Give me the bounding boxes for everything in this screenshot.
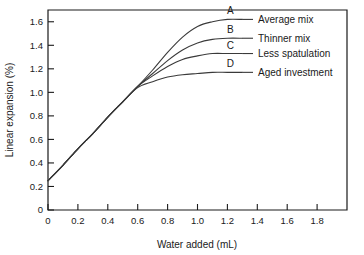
series-name-a: Average mix xyxy=(258,14,313,25)
y-axis-title: Linear expansion (%) xyxy=(4,63,15,158)
x-tick-label: 0 xyxy=(45,215,50,226)
x-tick-label: 1.0 xyxy=(191,215,204,226)
x-tick-label: 1.4 xyxy=(251,215,264,226)
chart-figure: 00.20.40.60.81.01.21.41.6 00.20.40.60.81… xyxy=(0,0,364,255)
x-tick-label: 0.2 xyxy=(71,215,84,226)
y-tick-label: 1.6 xyxy=(30,16,43,27)
y-tick-label: 1.4 xyxy=(30,40,43,51)
x-tick-label: 1.6 xyxy=(281,215,294,226)
y-tick-label: 0.4 xyxy=(30,157,43,168)
x-tick-label: 1.2 xyxy=(221,215,234,226)
x-tick-label: 0.6 xyxy=(131,215,144,226)
x-axis-title: Water added (mL) xyxy=(157,239,237,250)
y-tick-label: 0 xyxy=(38,204,43,215)
series-key-c: C xyxy=(227,40,234,51)
x-tick-label: 0.8 xyxy=(161,215,174,226)
y-tick-label: 0.6 xyxy=(30,134,43,145)
series-name-b: Thinner mix xyxy=(258,33,310,44)
y-tick-label: 1.0 xyxy=(30,87,43,98)
x-tick-label: 0.4 xyxy=(101,215,114,226)
y-tick-label: 0.8 xyxy=(30,110,43,121)
linear-expansion-chart: 00.20.40.60.81.01.21.41.6 00.20.40.60.81… xyxy=(0,0,364,255)
series-key-b: B xyxy=(227,24,234,35)
series-name-d: Aged investment xyxy=(258,67,333,78)
x-tick-label: 1.8 xyxy=(310,215,323,226)
y-tick-label: 1.2 xyxy=(30,63,43,74)
series-key-a: A xyxy=(227,5,234,16)
series-key-d: D xyxy=(227,58,234,69)
series-name-c: Less spatulation xyxy=(258,48,330,59)
y-tick-label: 0.2 xyxy=(30,181,43,192)
